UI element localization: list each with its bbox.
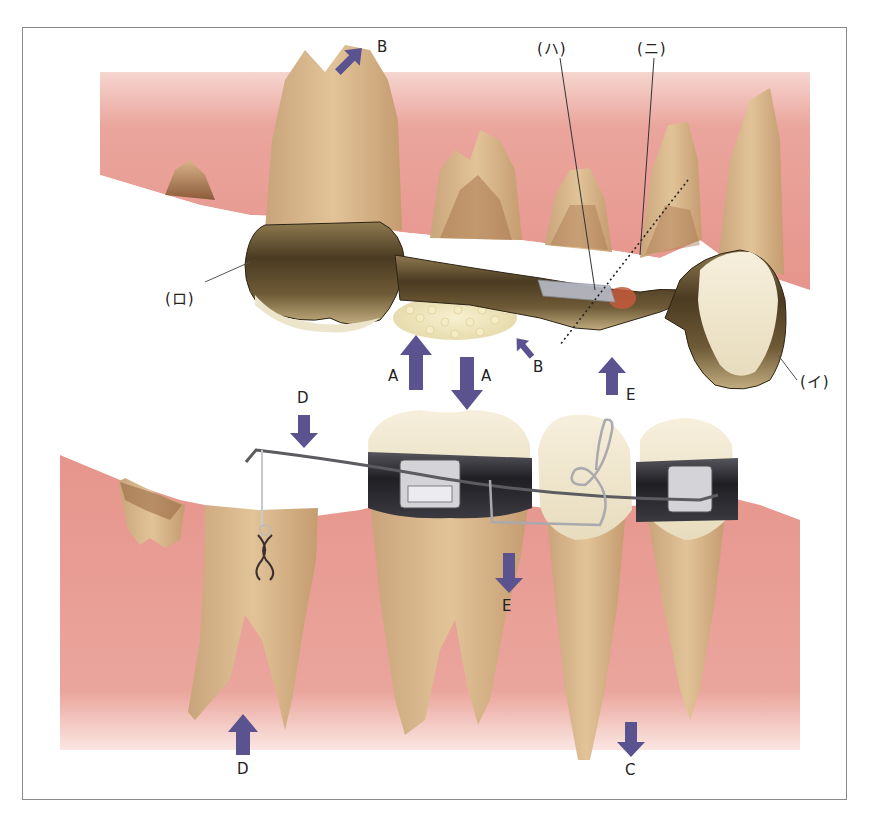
label-b-top: B: [377, 40, 387, 55]
label-e-down: E: [502, 599, 511, 614]
part-label-ro: (ロ): [165, 292, 195, 307]
lower-premolar-spring-crown: [538, 415, 632, 540]
label-d-bottom: D: [237, 762, 249, 777]
arrow-d-top: [290, 415, 318, 448]
label-a-up: A: [388, 369, 398, 384]
label-b-mid: B: [533, 360, 543, 375]
part-label-i: (イ): [800, 375, 830, 390]
label-e-up: E: [626, 388, 635, 403]
label-c: C: [625, 763, 635, 778]
arrow-a-down: [451, 357, 483, 410]
label-d-top: D: [297, 391, 309, 406]
arrow-e-up: [598, 357, 626, 395]
arrow-a-up: [400, 335, 432, 390]
label-a-down: A: [481, 369, 491, 384]
dental-illustration: [0, 0, 870, 821]
part-label-ni: (ニ): [637, 42, 667, 57]
right-bracket: [668, 466, 712, 512]
part-label-ha: (ハ): [537, 42, 567, 57]
